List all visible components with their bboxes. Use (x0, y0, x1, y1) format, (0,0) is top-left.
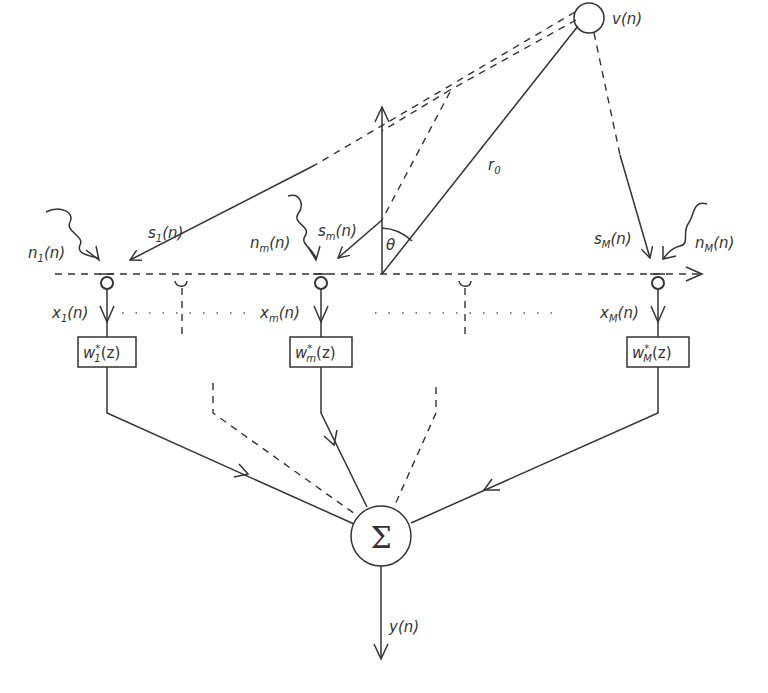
weight-box-M: w*M(z) (627, 337, 689, 367)
svg-text:w*m(z): w*m(z) (295, 343, 336, 364)
sum-symbol: Σ (370, 520, 391, 555)
signal-label-m: sm(n) (318, 222, 357, 242)
sensor-m (313, 274, 328, 345)
input-label-1: x1(n) (51, 304, 88, 324)
summation-node: Σ (351, 506, 411, 566)
hidden-sensors (122, 281, 560, 340)
array-axis (55, 267, 702, 281)
output-arrow (374, 566, 388, 659)
weight-box-1: w*1(z) (78, 337, 136, 367)
signal-label-1: s1(n) (148, 224, 183, 244)
input-label-m: xm(n) (259, 304, 300, 324)
propagation-paths (130, 12, 650, 274)
noise-label-M: nM(n) (695, 234, 734, 254)
angle-label: θ (386, 236, 395, 254)
beamformer-diagram: v(n) r0 θ s1(n) n1(n) sm(n) nm(n) sM(n) … (0, 0, 768, 693)
sensor-M (650, 274, 665, 345)
range-label: r0 (488, 156, 501, 176)
weight-box-m: w*m(z) (290, 337, 352, 367)
svg-text:w*1(z): w*1(z) (83, 343, 120, 364)
output-label: y(n) (388, 618, 419, 636)
noise-label-m: nm(n) (250, 234, 290, 254)
svg-text:w*M(z): w*M(z) (632, 343, 672, 364)
noise-arrows (46, 195, 707, 260)
signal-label-M: sM(n) (594, 230, 632, 250)
sensor-1 (99, 274, 114, 345)
source-label: v(n) (612, 10, 642, 28)
weight-to-sum-paths (107, 367, 658, 524)
range-line (382, 26, 578, 274)
source-node: v(n) (574, 3, 642, 33)
diagram-svg: v(n) r0 θ s1(n) n1(n) sm(n) nm(n) sM(n) … (0, 0, 768, 693)
noise-label-1: n1(n) (28, 244, 65, 264)
input-label-M: xM(n) (599, 304, 639, 324)
